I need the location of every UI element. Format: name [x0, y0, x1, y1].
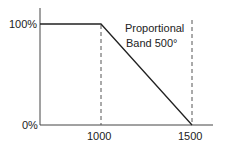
- y-label-0: 0%: [22, 119, 38, 131]
- x-label-1000: 1000: [87, 130, 111, 142]
- y-label-100: 100%: [9, 18, 37, 30]
- x-label-1500: 1500: [178, 130, 202, 142]
- band-label-line1: Proportional: [125, 22, 184, 34]
- band-label-line2: Band 500°: [126, 37, 178, 49]
